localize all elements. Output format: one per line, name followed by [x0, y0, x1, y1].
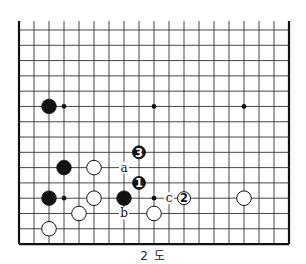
marker-c: c [164, 191, 174, 205]
white-stone [42, 221, 57, 236]
go-board: abc 123 [0, 0, 306, 264]
black-stone [42, 99, 57, 114]
star-point-icon [152, 104, 157, 109]
star-point-icon [62, 196, 67, 201]
star-point-icon [152, 196, 157, 201]
svg-text:b: b [120, 206, 128, 220]
white-stone [147, 206, 162, 221]
svg-text:a: a [120, 161, 127, 175]
svg-text:1: 1 [135, 176, 143, 190]
white-stone [87, 191, 102, 206]
marker-a: a [119, 161, 129, 175]
diagram-caption: 2 도 [0, 246, 306, 263]
star-point-icon [242, 104, 247, 109]
svg-text:2: 2 [180, 191, 188, 205]
black-stone [117, 191, 132, 206]
svg-text:3: 3 [135, 146, 143, 160]
black-stone [57, 160, 72, 175]
svg-text:c: c [166, 191, 173, 205]
black-stone [42, 191, 57, 206]
black-stone-3: 3 [133, 146, 146, 160]
marker-b: b [119, 206, 129, 220]
white-stone [237, 191, 252, 206]
white-stone [72, 206, 87, 221]
white-stone-2: 2 [178, 191, 191, 205]
white-stone [87, 160, 102, 175]
star-point-icon [62, 104, 67, 109]
black-stone-1: 1 [133, 176, 146, 190]
